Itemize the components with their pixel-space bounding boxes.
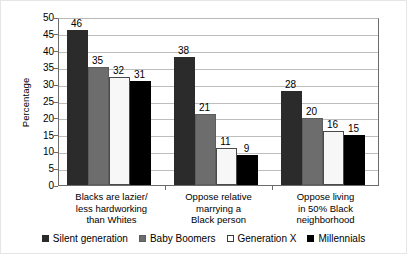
- legend-item[interactable]: Silent generation: [42, 233, 128, 244]
- y-axis-tick-mark: [54, 135, 58, 136]
- legend-label: Millennials: [318, 233, 365, 244]
- y-axis-tick-mark: [54, 34, 58, 35]
- x-axis-category-label: Oppose relative marrying a Black person: [157, 191, 280, 226]
- y-axis-tick-mark: [54, 85, 58, 86]
- bar-value-label: 31: [123, 70, 156, 80]
- bar-value-label: 46: [60, 19, 93, 29]
- y-axis-tick-label: 45: [20, 30, 54, 40]
- legend-swatch-icon: [42, 235, 49, 242]
- bar: [323, 131, 344, 185]
- legend-item[interactable]: Generation X: [227, 233, 297, 244]
- y-axis-tick-label: 50: [20, 13, 54, 23]
- y-axis-tick-label: 10: [20, 147, 54, 157]
- x-axis-tick-mark: [165, 186, 166, 190]
- y-axis-tick-mark: [54, 68, 58, 69]
- y-axis-tick-mark: [54, 118, 58, 119]
- legend-item[interactable]: Baby Boomers: [139, 233, 216, 244]
- y-axis-tick-labels: 50454035302520151050: [18, 1, 54, 254]
- bar: [174, 57, 195, 185]
- legend-item[interactable]: Millennials: [307, 233, 365, 244]
- y-axis-tick-label: 5: [20, 164, 54, 174]
- bar-value-label: 21: [188, 103, 221, 113]
- y-axis-tick-mark: [54, 51, 58, 52]
- legend-label: Baby Boomers: [150, 233, 216, 244]
- bar-value-label: 20: [295, 107, 328, 117]
- bar: [88, 67, 109, 185]
- gridline: [59, 52, 378, 53]
- bar-value-label: 28: [274, 80, 307, 90]
- bar-value-label: 9: [230, 144, 263, 154]
- bar: [237, 155, 258, 185]
- bar-value-label: 15: [337, 124, 370, 134]
- legend-label: Generation X: [238, 233, 297, 244]
- bar-value-label: 38: [167, 46, 200, 56]
- y-axis-tick-label: 15: [20, 131, 54, 141]
- y-axis-tick-mark: [54, 186, 58, 187]
- y-axis-tick-label: 25: [20, 97, 54, 107]
- legend-swatch-icon: [227, 235, 234, 242]
- legend-swatch-icon: [307, 235, 314, 242]
- x-axis-tick-mark: [272, 186, 273, 190]
- x-axis-category-label: Blacks are lazier/ less hardworking than…: [50, 191, 173, 226]
- y-axis-tick-label: 0: [20, 181, 54, 191]
- chart-legend: Silent generationBaby BoomersGeneration …: [1, 233, 406, 244]
- y-axis-tick-label: 40: [20, 47, 54, 57]
- bar: [344, 135, 365, 185]
- y-axis-tick-label: 35: [20, 63, 54, 73]
- y-axis-tick-mark: [54, 18, 58, 19]
- gridline: [59, 35, 378, 36]
- x-axis-category-label: Oppose living in 50% Black neighborhood: [264, 191, 387, 226]
- bar: [67, 30, 88, 185]
- bar: [195, 114, 216, 185]
- y-axis-tick-mark: [54, 152, 58, 153]
- legend-swatch-icon: [139, 235, 146, 242]
- y-axis-tick-label: 30: [20, 80, 54, 90]
- y-axis-tick-mark: [54, 102, 58, 103]
- bar: [281, 91, 302, 185]
- bar: [130, 81, 151, 185]
- legend-label: Silent generation: [53, 233, 128, 244]
- y-axis-tick-label: 20: [20, 114, 54, 124]
- bar-chart-figure: Percentage 50454035302520151050 Blacks a…: [0, 0, 407, 254]
- y-axis-tick-mark: [54, 169, 58, 170]
- bar-value-label: 35: [81, 56, 114, 66]
- plot-area: [58, 18, 379, 186]
- bar: [109, 77, 130, 185]
